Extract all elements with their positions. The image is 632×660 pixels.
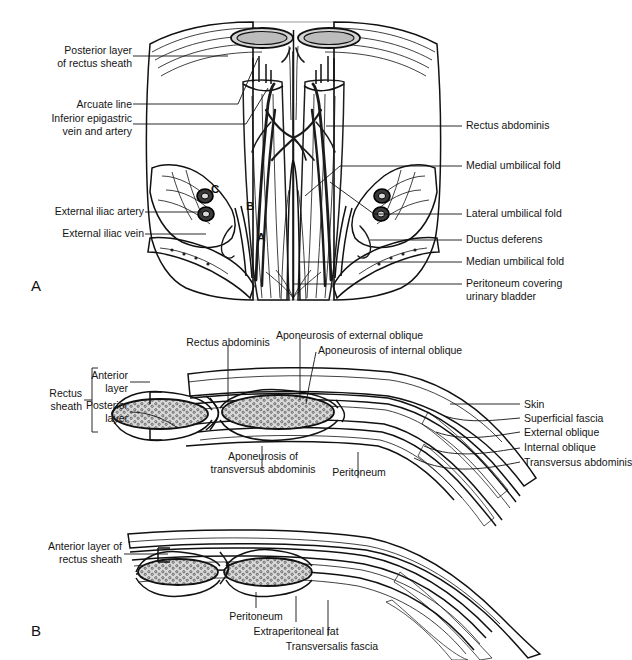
label-posterior-layer-of-rectus-sheath: Posterior layerof rectus sheath	[10, 44, 132, 69]
label-ductus-deferens: Ductus deferens	[466, 233, 542, 246]
label-external-iliac-vein: External iliac vein	[8, 227, 144, 240]
label-line-1: Anterior	[91, 369, 128, 381]
panel-letter-a: A	[31, 277, 41, 294]
label-aponeurosis-of-transversus-abdominis: Aponeurosis oftransversus abdominis	[190, 450, 336, 475]
label-line-1: Anterior layer of	[48, 540, 122, 552]
label-line-2: rectus sheath	[59, 553, 122, 565]
label-line-2: vein and artery	[63, 125, 132, 137]
label-peritoneum-covering-urinary-bladder: Peritoneum coveringurinary bladder	[466, 277, 562, 302]
label-superficial-fascia: Superficial fascia	[524, 412, 603, 425]
label-rectus-abdominis-xs: Rectus abdominis	[168, 336, 288, 349]
marker-supravesical-fossa: A	[257, 231, 265, 243]
label-aponeurosis-of-external-oblique: Aponeurosis of external oblique	[276, 329, 423, 342]
label-line-2: of rectus sheath	[57, 57, 132, 69]
label-transversus-abdominis: Transversus abdominis	[524, 456, 632, 469]
label-internal-oblique: Internal oblique	[524, 441, 596, 454]
panel-letter-b: B	[31, 622, 41, 639]
label-extraperitoneal-fat: Extraperitoneal fat	[214, 625, 378, 638]
label-peritoneum-xs: Peritoneum	[318, 466, 400, 479]
label-line-1: Inferior epigastric	[51, 112, 132, 124]
label-line-1: Peritoneum covering	[466, 277, 562, 289]
label-external-iliac-artery: External iliac artery	[8, 205, 144, 218]
label-posterior-layer: Posteriorlayer	[40, 399, 128, 424]
label-inferior-epigastric-vein-and-artery: Inferior epigastricvein and artery	[10, 112, 132, 137]
label-line-1: Posterior layer	[64, 44, 132, 56]
label-medial-umbilical-fold: Medial umbilical fold	[466, 159, 561, 172]
label-line-1: Aponeurosis of	[228, 450, 298, 462]
label-transversalis-fascia: Transversalis fascia	[248, 640, 416, 653]
label-skin: Skin	[524, 398, 544, 411]
left-inguinal-region	[148, 165, 254, 298]
rectus-sheath-cross-section-above-arcuate-line	[112, 368, 536, 526]
label-anterior-layer-of-rectus-sheath: Anterior layer ofrectus sheath	[10, 540, 122, 565]
marker-lateral-inguinal-fossa: C	[211, 183, 219, 195]
panel-a-wall-drawing	[146, 22, 440, 300]
label-peritoneum-b: Peritoneum	[210, 610, 302, 623]
right-inguinal-region	[333, 165, 439, 298]
label-rectus-abdominis: Rectus abdominis	[466, 119, 549, 132]
panel-a-leader-lines	[133, 56, 462, 284]
label-line-2: layer	[105, 382, 128, 394]
label-external-oblique: External oblique	[524, 426, 599, 439]
label-lateral-umbilical-fold: Lateral umbilical fold	[466, 207, 562, 220]
label-line-2: layer	[105, 412, 128, 424]
label-line-2: transversus abdominis	[210, 463, 315, 475]
label-line-2: urinary bladder	[466, 290, 536, 302]
label-anterior-layer: Anteriorlayer	[40, 369, 128, 394]
label-arcuate-line: Arcuate line	[10, 98, 132, 111]
label-aponeurosis-of-internal-oblique: Aponeurosis of internal oblique	[318, 344, 462, 357]
label-line-1: Posterior	[86, 399, 128, 411]
label-median-umbilical-fold: Median umbilical fold	[466, 255, 564, 268]
marker-medial-inguinal-fossa: B	[246, 200, 254, 212]
